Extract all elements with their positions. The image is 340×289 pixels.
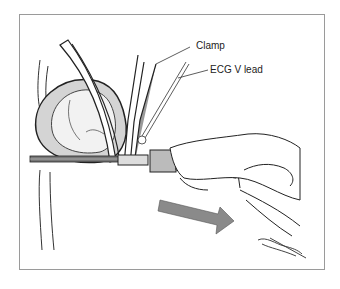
- catheter-bar: [30, 156, 122, 162]
- tissue-left: [38, 60, 54, 250]
- ecg-lead-wire: [138, 62, 208, 144]
- label-clamp: Clamp: [196, 40, 225, 51]
- hands: [170, 134, 300, 236]
- direction-arrow-icon: [158, 200, 234, 234]
- artist-signature-icon: [258, 238, 306, 258]
- label-ecg-v-lead: ECG V lead: [210, 64, 263, 75]
- medical-illustration: [0, 0, 340, 289]
